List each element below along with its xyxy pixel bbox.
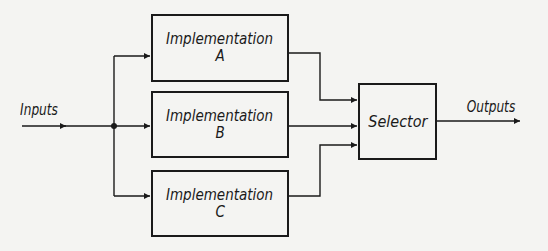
implementation-c-title: Implementation	[166, 187, 273, 204]
c-to-selector-arrow	[289, 145, 357, 196]
implementation-b-letter: B	[215, 125, 224, 142]
implementation-b-box: Implementation B	[151, 91, 289, 158]
implementation-b-title: Implementation	[166, 108, 273, 125]
implementation-c-letter: C	[215, 204, 224, 221]
a-to-selector-arrow	[289, 53, 357, 100]
implementation-c-box: Implementation C	[151, 170, 289, 237]
outputs-label: Outputs	[467, 99, 516, 116]
selector-box: Selector	[358, 83, 437, 160]
selector-label: Selector	[368, 113, 427, 130]
implementation-a-title: Implementation	[166, 31, 273, 48]
implementation-a-letter: A	[215, 48, 224, 65]
inputs-label: Inputs	[20, 102, 58, 119]
junction-dot	[111, 123, 117, 129]
implementation-a-box: Implementation A	[151, 14, 289, 82]
